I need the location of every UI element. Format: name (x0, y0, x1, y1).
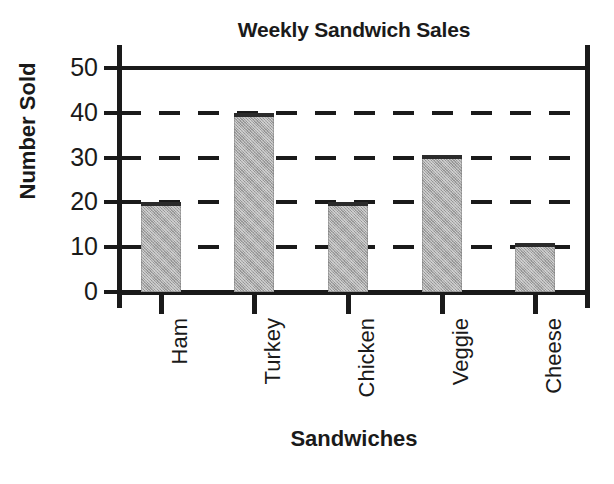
y-tick-10 (104, 245, 138, 249)
chart-title: Weekly Sandwich Sales (120, 19, 588, 40)
gridline-30 (120, 156, 588, 160)
bar-top-edge (141, 202, 181, 206)
bar-top-edge (328, 202, 368, 206)
bar-top-edge (234, 113, 274, 117)
x-tick-veggie (440, 292, 445, 314)
x-tick-ham (159, 292, 164, 314)
y-tick-label-40: 40 (36, 100, 98, 125)
y-tick-label-20: 20 (36, 189, 98, 214)
x-tick-turkey (252, 292, 257, 314)
bar-ham (141, 202, 181, 292)
bar-veggie (422, 155, 462, 292)
x-tick-chicken (346, 292, 351, 314)
plot-area (120, 68, 588, 292)
bar-chart: Weekly Sandwich Sales Number Sold 504030… (0, 0, 614, 484)
bar-chicken (328, 202, 368, 292)
y-tick-label-30: 30 (36, 145, 98, 170)
bar-top-edge (515, 243, 555, 247)
gridline-50 (120, 66, 588, 70)
bar-cheese (515, 243, 555, 292)
x-tick-cheese (533, 292, 538, 314)
y-tick-40 (104, 111, 138, 115)
y-tick-label-10: 10 (36, 234, 98, 259)
y-tick-0 (104, 290, 138, 294)
x-axis-title: Sandwiches (120, 428, 588, 450)
bar-turkey (234, 113, 274, 292)
bar-top-edge (422, 155, 462, 159)
y-tick-50 (104, 66, 138, 70)
gridline-40 (120, 111, 588, 115)
y-tick-30 (104, 156, 138, 160)
y-tick-20 (104, 200, 138, 204)
y-tick-label-0: 0 (36, 279, 98, 304)
y-tick-label-50: 50 (36, 55, 98, 80)
